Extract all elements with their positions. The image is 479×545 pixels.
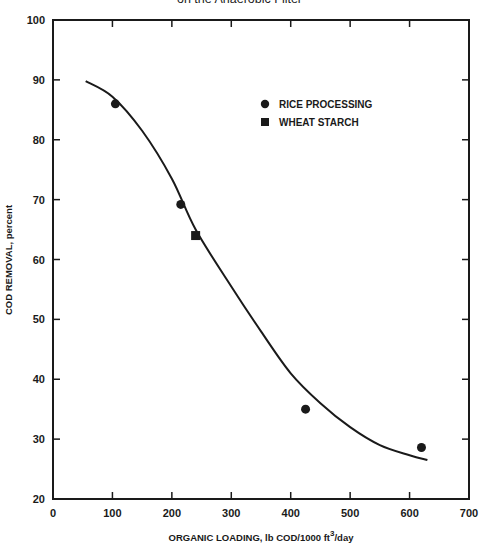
wheat-starch-point: [191, 231, 200, 240]
legend-label: RICE PROCESSING: [279, 99, 373, 110]
x-tick-label: 700: [460, 507, 478, 519]
y-tick-label: 80: [33, 134, 45, 146]
x-tick-label: 0: [50, 507, 56, 519]
rice-processing-point: [111, 99, 120, 108]
x-tick-label: 300: [222, 507, 240, 519]
x-tick-label: 200: [163, 507, 181, 519]
rice-processing-point: [176, 200, 185, 209]
plot-border: [53, 20, 469, 499]
plot-frame: [53, 20, 469, 499]
legend-circle-icon: [261, 100, 269, 108]
data-points: [111, 99, 426, 452]
curve-path: [86, 81, 428, 460]
y-tick-label: 90: [33, 74, 45, 86]
legend: RICE PROCESSINGWHEAT STARCH: [261, 99, 373, 128]
y-tick-label: 30: [33, 433, 45, 445]
rice-processing-point: [417, 443, 426, 452]
chart-canvas: 0100200300400500600700203040506070809010…: [0, 0, 479, 545]
y-tick-label: 40: [33, 373, 45, 385]
x-tick-label: 400: [282, 507, 300, 519]
y-tick-label: 70: [33, 194, 45, 206]
fitted-curve: [86, 81, 428, 460]
x-tick-label: 100: [103, 507, 121, 519]
legend-label: WHEAT STARCH: [279, 117, 359, 128]
y-tick-label: 50: [33, 313, 45, 325]
axis-ticks: 0100200300400500600700203040506070809010…: [27, 14, 479, 519]
y-tick-label: 60: [33, 254, 45, 266]
y-tick-label: 20: [33, 493, 45, 505]
y-axis-label: COD REMOVAL, percent: [3, 204, 14, 315]
y-tick-label: 100: [27, 14, 45, 26]
x-axis-label: ORGANIC LOADING, lb COD/1000 ft3/day: [169, 529, 355, 543]
x-tick-label: 500: [341, 507, 359, 519]
rice-processing-point: [301, 405, 310, 414]
legend-square-icon: [261, 118, 269, 126]
x-tick-label: 600: [400, 507, 418, 519]
